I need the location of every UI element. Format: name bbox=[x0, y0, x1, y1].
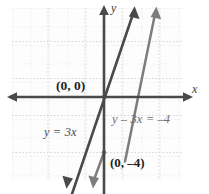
line1-equation-label: y = 3x bbox=[44, 126, 77, 139]
x-axis-label: x bbox=[192, 83, 197, 95]
origin-point-label: (0, 0) bbox=[56, 79, 85, 93]
y-axis-label: y bbox=[111, 2, 116, 14]
coordinate-plane bbox=[0, 0, 209, 194]
graph-figure: (0, 0) (0, –4) y = 3x y – 3x = –4 y x bbox=[0, 0, 209, 194]
line2-equation-label: y – 3x = –4 bbox=[112, 113, 170, 126]
grid-lines bbox=[12, 8, 182, 180]
y-intercept-point-label: (0, –4) bbox=[110, 156, 145, 169]
